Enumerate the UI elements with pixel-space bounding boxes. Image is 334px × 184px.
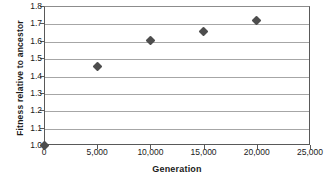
x-axis-title: Generation xyxy=(44,164,310,174)
fitness-vs-generation-chart: Fitness relative to ancestor 1.01.11.21.… xyxy=(0,0,334,184)
y-axis-tick-label: 1.3 xyxy=(20,89,42,97)
plot-area xyxy=(44,6,310,145)
x-axis-tick-label: 10,000 xyxy=(127,147,173,157)
y-axis-tick-label: 1.5 xyxy=(20,54,42,62)
gridline xyxy=(45,42,309,43)
x-axis-tick-label: 20,000 xyxy=(234,147,280,157)
y-axis-tick-label: 1.2 xyxy=(20,106,42,114)
y-axis-tick-label: 1.8 xyxy=(20,2,42,10)
x-axis-tick-label: 5,000 xyxy=(74,147,120,157)
y-axis-tick-label: 1.4 xyxy=(20,72,42,80)
y-axis-tick-label: 1.7 xyxy=(20,19,42,27)
gridline xyxy=(45,59,309,60)
gridline xyxy=(45,129,309,130)
gridline xyxy=(45,94,309,95)
x-axis-tick-label: 15,000 xyxy=(181,147,227,157)
gridline xyxy=(45,24,309,25)
gridline xyxy=(45,111,309,112)
x-axis-tick-label: 25,000 xyxy=(287,147,333,157)
y-axis-tick-label: 1.1 xyxy=(20,124,42,132)
y-axis-tick-label: 1.6 xyxy=(20,37,42,45)
gridline xyxy=(45,77,309,78)
